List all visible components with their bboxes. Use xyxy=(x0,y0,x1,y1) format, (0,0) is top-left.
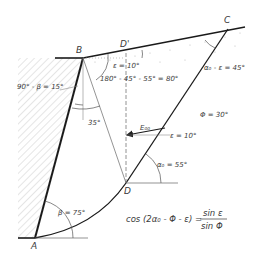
equation-numerator: sin ε xyxy=(203,208,223,218)
e-force-label: E₀₀ xyxy=(140,124,150,132)
arc-35 xyxy=(72,106,100,109)
point-B-label: B xyxy=(76,45,82,55)
sum-angle-label: 180° - 45° - 55° = 80° xyxy=(100,75,178,83)
epsilon-top-label: ε = 10° xyxy=(113,62,140,70)
equation-lhs: cos (2α₀ - Φ - ε) = xyxy=(126,214,202,224)
arc-15 xyxy=(75,104,83,105)
slip-plane-CD xyxy=(126,29,228,183)
alpha-minus-eps-label: α₀ - ε = 45° xyxy=(204,64,245,72)
alpha0-label: α₀ = 55° xyxy=(157,161,187,169)
point-D-label: D xyxy=(124,186,131,196)
point-Dprime-label: D' xyxy=(120,39,129,49)
angle-35-label: 35° xyxy=(88,119,100,127)
complement-beta-label: 90° - β = 15° xyxy=(17,83,64,91)
arc-eps-top xyxy=(142,50,143,58)
phi-label: Φ = 30° xyxy=(200,111,228,119)
point-A-label: A xyxy=(30,241,37,251)
earth-pressure-diagram: B D' C D A ε = 10° 180° - 45° - 55° = 80… xyxy=(0,0,258,257)
arc-alpha-eps xyxy=(205,40,215,48)
epsilon-force-label: ε = 10° xyxy=(170,132,197,140)
backfill-surface xyxy=(83,27,245,58)
equation-denominator: sin Φ xyxy=(201,221,223,231)
point-C-label: C xyxy=(224,15,231,25)
beta-label: β = 75° xyxy=(58,209,85,217)
